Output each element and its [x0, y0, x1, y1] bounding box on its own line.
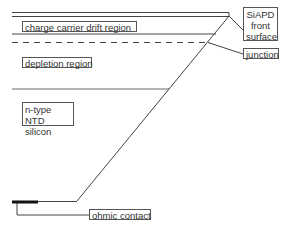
ohmic-contact-bar: [12, 201, 38, 204]
bevel-edge-line: [77, 16, 229, 201]
ohmic-leader: [17, 203, 89, 215]
siapd-leader: [229, 16, 243, 30]
junction-label: junction: [243, 48, 279, 59]
charge-carrier-drift-region-label: charge carrier drift region: [22, 21, 137, 32]
depletion-region-label: depletion region: [22, 57, 92, 68]
junction-leader: [208, 43, 243, 55]
ntype-silicon-label: n-type NTD silicon: [22, 102, 74, 126]
ohmic-contact-label: ohmic contact: [89, 209, 151, 220]
siapd-front-surface-label: SiAPD front surface: [243, 7, 278, 41]
